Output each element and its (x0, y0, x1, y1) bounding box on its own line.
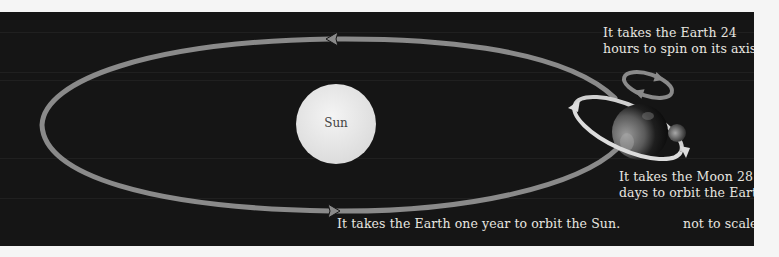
moon-orbit-caption: It takes the Moon 28 days to orbit the E… (619, 169, 754, 201)
solar-diagram-panel: Sun It takes the Earth 24 hours to spin … (0, 12, 754, 246)
moon-orbit-arrow-icon (568, 100, 580, 112)
moon-icon (668, 124, 686, 142)
sun-label: Sun (296, 116, 376, 130)
earth-spin-caption: It takes the Earth 24 hours to spin on i… (603, 25, 754, 57)
earth-orbit-caption: It takes the Earth one year to orbit the… (337, 216, 620, 232)
earth-icon (612, 104, 668, 160)
caption-line: days to orbit the Earth. (619, 185, 754, 201)
caption-line: hours to spin on its axis. (603, 41, 754, 57)
orbit-arrow-left-icon (326, 32, 338, 46)
earth-spin-ring (620, 63, 677, 107)
caption-line: It takes the Earth 24 (603, 25, 754, 41)
caption-line: It takes the Moon 28 (619, 169, 754, 185)
scale-note: not to scale (683, 216, 754, 232)
earth-continent (642, 112, 654, 120)
